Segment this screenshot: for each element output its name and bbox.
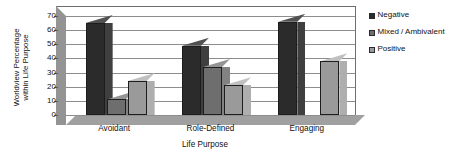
bar bbox=[182, 46, 201, 115]
gridline bbox=[66, 115, 355, 116]
y-axis-tick-label: 30 bbox=[34, 69, 56, 77]
legend-swatch-icon bbox=[369, 47, 375, 53]
bar bbox=[224, 85, 243, 115]
bar-side-face bbox=[147, 81, 155, 115]
bar-chart: Worldview Percentage within Life Purpose… bbox=[0, 0, 466, 159]
y-axis-tick-label: 70 bbox=[34, 12, 56, 20]
legend-swatch-icon bbox=[369, 30, 375, 36]
bar bbox=[203, 67, 222, 115]
x-axis-tick-label: Engaging bbox=[259, 124, 355, 133]
y-axis-tick-label: 60 bbox=[34, 26, 56, 34]
y-axis-tick-label: 0 bbox=[34, 111, 56, 119]
legend-label: Positive bbox=[378, 45, 406, 54]
bar-front-face bbox=[86, 23, 105, 115]
x-axis-tick-label: Role-Defined bbox=[162, 124, 258, 133]
bar bbox=[320, 61, 339, 115]
bar-top-face bbox=[320, 53, 347, 61]
legend: NegativeMixed / AmbivalentPositive bbox=[369, 11, 466, 62]
bar bbox=[86, 23, 105, 115]
bar bbox=[128, 81, 147, 115]
bar-top-face bbox=[182, 38, 209, 46]
y-axis-tick-labels: 010203040506070 bbox=[32, 0, 56, 159]
y-axis-tick-label: 10 bbox=[34, 97, 56, 105]
legend-swatch-icon bbox=[369, 13, 375, 19]
bar-front-face bbox=[320, 61, 339, 115]
legend-label: Mixed / Ambivalent bbox=[378, 28, 445, 37]
bar-side-face bbox=[339, 61, 347, 115]
bar-series-container bbox=[66, 16, 355, 115]
bar-front-face bbox=[203, 67, 222, 115]
x-axis-title: Life Purpose bbox=[0, 140, 410, 149]
bar-top-face bbox=[86, 15, 113, 23]
bar bbox=[278, 22, 297, 115]
legend-item[interactable]: Positive bbox=[369, 45, 466, 54]
bar-front-face bbox=[107, 99, 126, 115]
bar-front-face bbox=[182, 46, 201, 115]
bar-side-face bbox=[297, 22, 305, 115]
bar-front-face bbox=[278, 22, 297, 115]
y-axis-tick-label: 40 bbox=[34, 54, 56, 62]
legend-item[interactable]: Negative bbox=[369, 11, 466, 20]
legend-item[interactable]: Mixed / Ambivalent bbox=[369, 28, 466, 37]
bar-top-face bbox=[128, 73, 155, 81]
y-axis-tick-label: 50 bbox=[34, 40, 56, 48]
bar-side-face bbox=[243, 85, 251, 115]
x-axis-tick-label: Avoidant bbox=[66, 124, 162, 133]
legend-label: Negative bbox=[378, 11, 410, 20]
bar bbox=[107, 99, 126, 115]
y-axis-tick-label: 20 bbox=[34, 83, 56, 91]
bar-front-face bbox=[128, 81, 147, 115]
bar-front-face bbox=[224, 85, 243, 115]
